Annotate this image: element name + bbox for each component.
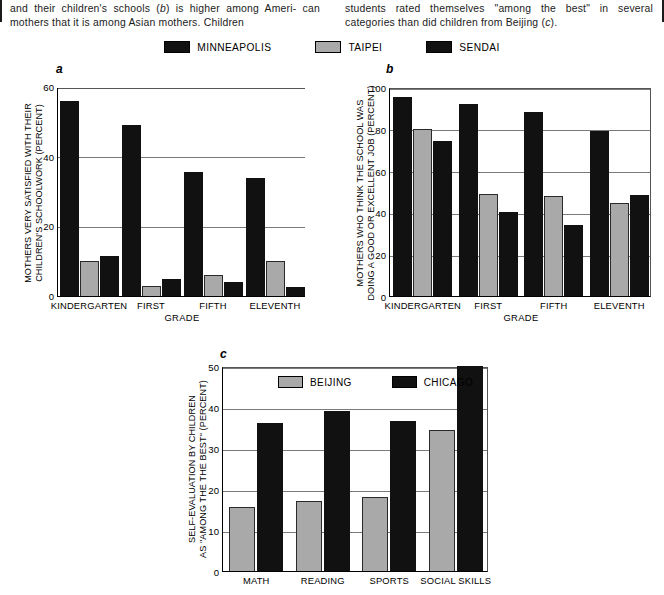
- bar: [204, 275, 223, 296]
- bar-group: [459, 89, 518, 296]
- y-tick-label: 20: [208, 486, 219, 496]
- bar: [610, 203, 629, 296]
- bar-group: [184, 88, 243, 296]
- legend-label: BEIJING: [310, 377, 352, 388]
- legend-label: MINNEAPOLIS: [197, 42, 271, 53]
- chart-legend: MINNEAPOLISTAIPEISENDAI: [0, 41, 664, 53]
- plot-area-a: 0204060KINDERGARTENFIRSTFIFTHELEVENTHGRA…: [57, 88, 305, 297]
- y-tick-label: 60: [43, 83, 54, 93]
- caption-right-line-1: students rated themselves "among the bes…: [345, 3, 653, 14]
- bar: [80, 261, 99, 296]
- x-tick-label: FIFTH: [199, 300, 227, 311]
- bar: [524, 112, 543, 296]
- bar: [100, 256, 119, 296]
- panel-letter-c: c: [220, 347, 227, 361]
- panel-letter-a: a: [56, 62, 63, 76]
- y-tick-label: 40: [375, 210, 386, 220]
- legend-label: CHICAGO: [424, 377, 473, 388]
- bar-group: [429, 368, 483, 571]
- bar: [564, 225, 583, 296]
- bar: [266, 261, 285, 296]
- inline-legend-c: BEIJINGCHICAGO: [278, 376, 513, 388]
- bar: [590, 131, 609, 296]
- legend-swatch-icon-sendai: [426, 41, 452, 53]
- y-axis-title-b: MOTHERS WHO THINK THE SCHOOL WASDOING A …: [354, 85, 376, 300]
- bar-group: [122, 88, 181, 296]
- bar-group: [362, 368, 416, 571]
- y-axis-title-a: MOTHERS VERY SATISFIED WITH THEIRCHILDRE…: [23, 103, 45, 283]
- bar: [393, 97, 412, 296]
- x-axis-title-a: GRADE: [164, 312, 199, 323]
- bar: [433, 141, 452, 296]
- x-axis-title-b: GRADE: [503, 312, 538, 323]
- bar: [224, 282, 243, 296]
- x-tick-label: FIRST: [474, 300, 502, 311]
- y-tick-label: 20: [375, 251, 386, 261]
- bar: [286, 287, 305, 296]
- y-tick-label: 80: [375, 126, 386, 136]
- bar: [390, 421, 416, 571]
- chart-panel-a: aMOTHERS VERY SATISFIED WITH THEIRCHILDR…: [0, 62, 332, 312]
- legend-entry-taipei: TAIPEI: [315, 41, 382, 53]
- caption-left-line-1: and their children's schools (b) is high…: [10, 3, 296, 14]
- y-tick-label: 20: [43, 223, 54, 233]
- bar: [324, 411, 350, 571]
- bar-group: [393, 89, 452, 296]
- y-axis-title-line: DOING A GOOD OR EXCELLENT JOB (PERCENT): [365, 85, 376, 300]
- bar: [122, 125, 141, 296]
- x-tick-label: KINDERGARTEN: [384, 300, 461, 311]
- bar: [246, 178, 265, 296]
- x-tick-label: SPORTS: [369, 575, 409, 586]
- y-axis-title-line: CHILDREN'S SCHOOLWORK (PERCENT): [34, 103, 45, 283]
- bar: [257, 423, 283, 571]
- x-tick-label: ELEVENTH: [250, 300, 301, 311]
- x-tick-label: MATH: [243, 575, 270, 586]
- y-axis-title-line: SELF-EVALUATION BY CHILDREN: [187, 380, 198, 558]
- plot-area-c: 01020304050MATHREADINGSPORTSSOCIAL SKILL…: [222, 367, 488, 572]
- panel-letter-b: b: [386, 62, 393, 76]
- bar: [429, 430, 455, 571]
- chart-panel-b: bMOTHERS WHO THINK THE SCHOOL WASDOING A…: [332, 62, 664, 312]
- x-tick-label: KINDERGARTEN: [51, 300, 128, 311]
- legend-label: SENDAI: [459, 42, 499, 53]
- bar: [459, 104, 478, 296]
- x-tick-label: READING: [301, 575, 345, 586]
- legend-entry-chicago: CHICAGO: [392, 376, 473, 388]
- legend-label: TAIPEI: [348, 42, 382, 53]
- bar: [413, 129, 432, 296]
- bar-group: [524, 89, 583, 296]
- page-border-left: [0, 0, 2, 22]
- bar-group: [229, 368, 283, 571]
- bar-group: [296, 368, 350, 571]
- plot-area-b: 020406080100KINDERGARTENFIRSTFIFTHELEVEN…: [389, 88, 651, 297]
- bar-group: [246, 88, 305, 296]
- legend-entry-beijing: BEIJING: [278, 376, 352, 388]
- bar: [457, 366, 483, 571]
- caption-right-line-2: categories than did children from Beijin…: [345, 17, 557, 28]
- legend-entry-minneapolis: MINNEAPOLIS: [164, 41, 271, 53]
- y-tick-label: 50: [208, 363, 219, 373]
- caption-left-column: and their children's schools (b) is high…: [10, 2, 320, 29]
- y-tick-label: 30: [208, 445, 219, 455]
- y-axis-title-line: MOTHERS VERY SATISFIED WITH THEIR: [23, 103, 34, 283]
- y-tick-label: 40: [208, 404, 219, 414]
- legend-entry-sendai: SENDAI: [426, 41, 499, 53]
- x-tick-label: FIFTH: [540, 300, 568, 311]
- y-tick-label: 100: [370, 84, 386, 94]
- legend-swatch-icon-chicago: [392, 376, 417, 388]
- y-tick-label: 0: [214, 568, 219, 578]
- bar: [142, 286, 161, 296]
- bar: [296, 501, 322, 571]
- bar-group: [60, 88, 119, 296]
- y-tick-label: 60: [375, 168, 386, 178]
- bar: [479, 194, 498, 296]
- y-tick-label: 40: [43, 153, 54, 163]
- legend-swatch-icon-minneapolis: [164, 41, 190, 53]
- x-tick-label: ELEVENTH: [594, 300, 645, 311]
- bar: [60, 101, 79, 296]
- bar: [229, 507, 255, 571]
- bar: [184, 172, 203, 296]
- y-axis-title-c: SELF-EVALUATION BY CHILDRENAS "AMONG THE…: [187, 380, 209, 558]
- caption-right-column: students rated themselves "among the bes…: [345, 2, 653, 29]
- x-tick-label: SOCIAL SKILLS: [420, 575, 491, 586]
